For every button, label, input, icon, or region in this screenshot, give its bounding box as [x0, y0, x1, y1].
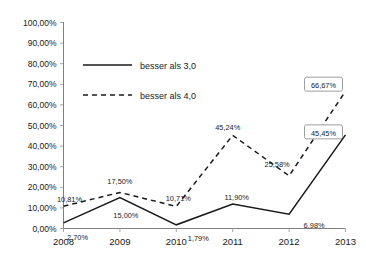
- data-point-label: 2,70%: [67, 233, 88, 242]
- line-chart: 0,00%10,00%20,00%30,00%40,00%50,00%60,00…: [0, 0, 366, 263]
- series-lines: [64, 91, 346, 225]
- x-tick-label: 2012: [279, 236, 300, 247]
- y-tick-label: 100,00%: [23, 18, 57, 28]
- data-point-label: 17,50%: [107, 177, 132, 186]
- y-tick-label: 70,00%: [28, 79, 57, 89]
- data-point-labels: 2,70%15,00%1,79%11,90%6,98%45,45%10,81%1…: [57, 77, 343, 243]
- chart-canvas: 0,00%10,00%20,00%30,00%40,00%50,00%60,00…: [0, 0, 366, 263]
- y-tick-label: 0,00%: [32, 224, 57, 234]
- legend-label-1: besser als 3,0: [140, 61, 196, 71]
- x-tick-label: 2013: [335, 236, 356, 247]
- x-tick-label: 2011: [222, 236, 242, 247]
- series-line-2: [64, 91, 346, 206]
- data-point-label: 11,90%: [224, 193, 249, 202]
- data-point-label: 10,81%: [57, 195, 82, 204]
- data-point-label: 6,98%: [304, 221, 325, 230]
- y-tick-label: 30,00%: [28, 162, 57, 172]
- data-point-label: 15,00%: [113, 211, 138, 220]
- series-line-1: [64, 135, 346, 225]
- x-tick-label: 2010: [166, 236, 187, 247]
- y-tick-label: 50,00%: [28, 121, 57, 131]
- data-point-label: 25,58%: [265, 160, 290, 169]
- data-point-label: 10,71%: [166, 194, 191, 203]
- y-tick-label: 90,00%: [28, 38, 57, 48]
- legend-label-2: besser als 4,0: [140, 91, 196, 101]
- chart-legend: besser als 3,0besser als 4,0: [83, 61, 196, 101]
- y-tick-label: 80,00%: [28, 59, 57, 69]
- x-tick-label: 2009: [109, 236, 130, 247]
- data-point-label: 66,67%: [311, 81, 336, 90]
- data-point-label: 45,45%: [311, 129, 336, 138]
- y-axis-labels: 0,00%10,00%20,00%30,00%40,00%50,00%60,00…: [23, 18, 57, 234]
- data-point-label: 45,24%: [215, 123, 240, 132]
- y-tick-label: 10,00%: [28, 203, 57, 213]
- y-tick-label: 20,00%: [28, 182, 57, 192]
- y-tick-label: 40,00%: [28, 141, 57, 151]
- y-tick-label: 60,00%: [28, 100, 57, 110]
- data-point-label: 1,79%: [188, 234, 209, 243]
